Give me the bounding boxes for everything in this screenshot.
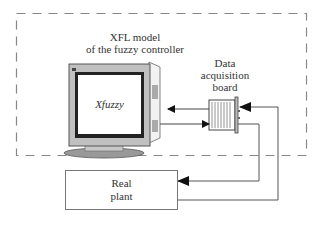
real-plant-box: Real plant <box>65 170 178 210</box>
board-label-line1: Data <box>190 57 260 69</box>
board-label: Data acquisition board <box>190 57 260 93</box>
controller-title-line2: of the fuzzy controller <box>60 43 210 55</box>
plant-label-line1: Real <box>66 177 177 190</box>
arrow-board-to-plant <box>178 124 259 181</box>
fuzzy-control-diagram: XFL model of the fuzzy controller Xfuzzy… <box>0 0 324 226</box>
monitor-screen-label: Xfuzzy <box>78 98 141 110</box>
computer-monitor-icon <box>64 62 160 158</box>
board-label-line2: acquisition <box>190 69 260 81</box>
real-plant-label: Real plant <box>66 177 177 203</box>
board-label-line3: board <box>190 81 260 93</box>
plant-label-line2: plant <box>66 190 177 203</box>
data-acquisition-board-icon <box>209 97 240 133</box>
controller-title-line1: XFL model <box>60 31 210 43</box>
controller-region-title: XFL model of the fuzzy controller <box>60 31 210 55</box>
